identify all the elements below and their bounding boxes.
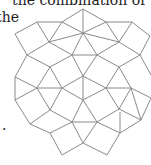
tiling-edge [50, 88, 62, 110]
tiling-edge [83, 55, 97, 76]
tiling-edge [62, 9, 83, 22]
tiling-edge [119, 42, 140, 55]
tiling-edge [106, 67, 119, 88]
tiling-edge [83, 100, 97, 122]
tiling-edge [97, 122, 120, 133]
tiling-edge [140, 36, 150, 55]
tiling-edge [72, 55, 83, 76]
tiling-edge [15, 34, 27, 55]
tiling-edge [15, 100, 30, 124]
tiling-edge [107, 133, 120, 155]
tiling-edge [140, 55, 151, 75]
tiling-edge [50, 133, 62, 155]
tiling-edge [132, 22, 150, 36]
tiling-edge [83, 143, 107, 155]
tiling-edge [72, 122, 83, 143]
square-triangle-tiling-figure [0, 0, 151, 165]
tiling-edge [49, 42, 72, 55]
tiling-edge [37, 22, 49, 42]
tiling-edge [97, 55, 119, 67]
tiling-edge [97, 42, 119, 55]
tiling-edge [37, 67, 50, 88]
tiling-edge [30, 124, 50, 133]
tiling-edge [15, 55, 27, 77]
tiling-edge [15, 77, 37, 88]
tiling-edge [50, 55, 72, 67]
tiling-edge [106, 88, 119, 109]
tiling-edge [62, 76, 83, 88]
tiling-edge [97, 109, 119, 122]
tiling-edge [119, 67, 131, 88]
tiling-edge [83, 22, 106, 33]
tiling-edge [15, 88, 37, 100]
tiling-edge [119, 88, 131, 109]
tiling-edge [15, 22, 37, 34]
tiling-edge [50, 110, 72, 122]
tiling-edge [62, 88, 83, 100]
tiling-edge [62, 22, 83, 33]
tiling-edge [83, 9, 106, 22]
tiling-edge [72, 100, 83, 122]
tiling-edge [120, 120, 141, 133]
tiling-edge [50, 122, 72, 133]
tiling-edge [83, 122, 97, 143]
tiling-edge [27, 55, 50, 67]
tiling-edge [83, 76, 106, 88]
tiling-edge [119, 55, 140, 67]
tiling-edge [37, 88, 50, 110]
tiling-edge [62, 143, 83, 155]
tiling-edge [119, 22, 132, 42]
tiling-edge [50, 67, 62, 88]
tiling-edge [141, 98, 151, 120]
tiling-edge [30, 110, 50, 124]
tiling-edge [72, 33, 83, 55]
tiling-edge [83, 88, 106, 100]
tiling-edge [27, 42, 49, 55]
